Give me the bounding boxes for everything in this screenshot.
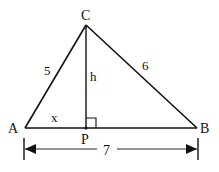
side-label-ac: 5 bbox=[44, 63, 51, 78]
arrowhead-right-icon bbox=[186, 144, 197, 154]
segment-label-x: x bbox=[51, 110, 58, 125]
vertex-label-a: A bbox=[8, 121, 19, 136]
side-bc bbox=[86, 25, 197, 128]
vertex-label-b: B bbox=[200, 121, 209, 136]
triangle-diagram: C A B P 5 6 h x 7 bbox=[0, 0, 219, 172]
arrowhead-left-icon bbox=[25, 144, 36, 154]
side-label-bc: 6 bbox=[142, 58, 149, 73]
foot-point-p bbox=[84, 126, 87, 129]
right-angle-marker bbox=[86, 118, 96, 128]
foot-label-p: P bbox=[81, 132, 89, 147]
side-label-ab: 7 bbox=[103, 143, 110, 158]
altitude-label-h: h bbox=[90, 69, 97, 84]
vertex-label-c: C bbox=[81, 8, 90, 23]
